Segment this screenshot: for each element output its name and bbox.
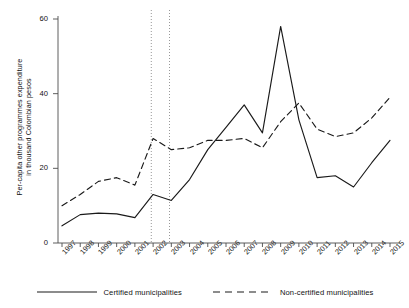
legend-item-certified: Certified municipalities xyxy=(36,288,182,297)
data-series-group xyxy=(62,26,390,225)
plot-area xyxy=(0,0,409,308)
axes xyxy=(53,16,400,247)
legend-label-certified: Certified municipalities xyxy=(104,288,182,297)
series-line-dashed xyxy=(62,97,390,205)
legend-swatch-dashed xyxy=(212,288,274,296)
chart-legend: Certified municipalities Non-certified m… xyxy=(0,283,409,301)
reference-lines xyxy=(151,10,169,243)
legend-label-noncertified: Non-certified municipalities xyxy=(280,288,374,297)
legend-swatch-solid xyxy=(36,288,98,296)
series-line-solid xyxy=(62,26,390,225)
chart-figure: Per-capita other programmes expenditure … xyxy=(0,0,409,308)
legend-item-noncertified: Non-certified municipalities xyxy=(212,288,374,297)
